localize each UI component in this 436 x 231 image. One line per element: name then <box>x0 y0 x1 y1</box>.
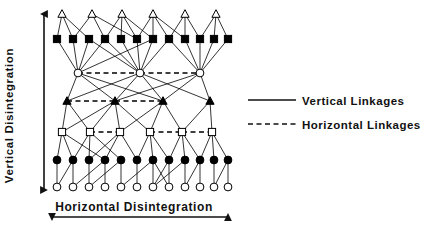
horizontal-axis-label: Horizontal Disintegration <box>44 200 224 214</box>
legend-label-vertical-linkages: Vertical Linkages <box>302 95 404 107</box>
legend-label-horizontal-linkages: Horizontal Linkages <box>302 119 421 131</box>
vertical-axis-label: Vertical Disintegration <box>0 0 18 231</box>
diagram-root: Vertical Disintegration Horizontal Disin… <box>0 0 436 231</box>
network-diagram-canvas <box>0 0 436 231</box>
